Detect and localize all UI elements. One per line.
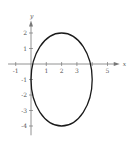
x-tick-label: 5 (106, 67, 110, 74)
y-tick-label: -4 (21, 122, 27, 129)
y-axis-arrow-icon (29, 21, 33, 27)
ellipse-curve (31, 33, 92, 126)
y-tick-label: -1 (21, 76, 27, 83)
x-tick-label: 2 (60, 67, 64, 74)
y-axis-label: y (29, 12, 34, 20)
x-tick-label: 1 (44, 67, 48, 74)
x-axis-label: x (123, 60, 127, 67)
x-tick-label: 3 (75, 67, 79, 74)
x-axis-arrow-icon (114, 62, 120, 66)
chart: xy-1123521-1-2-3-4 (0, 0, 133, 144)
y-tick-label: -3 (21, 107, 27, 114)
y-tick-label: 1 (23, 45, 27, 52)
y-tick-label: -2 (21, 91, 27, 98)
y-tick-label: 2 (23, 29, 27, 36)
x-tick-label: -1 (13, 67, 19, 74)
